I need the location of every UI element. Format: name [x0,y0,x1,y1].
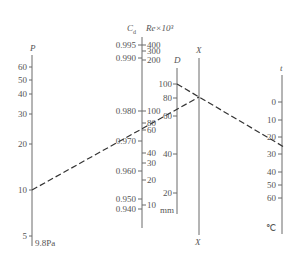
t-tick-label: 0 [258,98,276,107]
p-axis-title: P [30,44,36,53]
d-tick-label: 60 [152,112,172,121]
t-tick-label: 10 [258,116,276,125]
t-tick-label: 20 [258,133,276,142]
t-axis-title: t [280,64,283,73]
p-tick-label: 60 [12,63,27,72]
d-axis-ticks [173,84,177,193]
t-tick-label: 60 [258,194,276,203]
p-tick-label: 40 [12,90,27,99]
t-tick-label: 30 [258,150,276,159]
p-tick-label: 30 [12,110,27,119]
cd-axis-ticks [138,45,142,209]
d-tick-label: 80 [152,94,172,103]
p-axis-unit: 9.8Pa [35,239,55,248]
cd-tick-label: 0.980 [104,107,136,116]
t-tick-label: 40 [258,168,276,177]
nomogram: P 60 50 40 30 20 10 5 9.8Pa Cd Re×10³ 0.… [0,0,292,260]
re-axis-title: Re×10³ [146,24,173,33]
x-axis-title-top: X [196,46,202,55]
cd-tick-label: 0.950 [104,195,136,204]
re-axis-ticks [142,45,146,205]
d-tick-label: 40 [152,150,172,159]
nomogram-canvas [0,0,292,260]
t-axis-unit: ℃ [266,224,276,233]
d-axis-unit: mm [160,206,174,215]
d-tick-label: 20 [152,189,172,198]
cd-tick-label: 0.940 [104,205,136,214]
cd-tick-label: 0.970 [104,137,136,146]
cd-tick-label: 0.960 [104,167,136,176]
re-tick-label: 20 [147,176,156,185]
re-tick-label: 60 [147,126,156,135]
p-tick-label: 5 [12,232,27,241]
p-tick-label: 10 [12,186,27,195]
re-tick-label: 30 [147,159,156,168]
re-tick-label: 10 [147,201,156,210]
t-tick-label: 50 [258,181,276,190]
p-tick-label: 50 [12,76,27,85]
cd-axis-title: Cd [127,24,136,35]
d-tick-label: 100 [152,80,172,89]
x-axis-title-bottom: X [195,238,201,247]
p-tick-label: 20 [12,140,27,149]
re-tick-label: 200 [147,56,161,65]
t-axis-ticks [278,102,282,198]
cd-tick-label: 0.995 [104,41,136,50]
cd-tick-label: 0.990 [104,54,136,63]
d-axis-title: D [174,56,181,65]
